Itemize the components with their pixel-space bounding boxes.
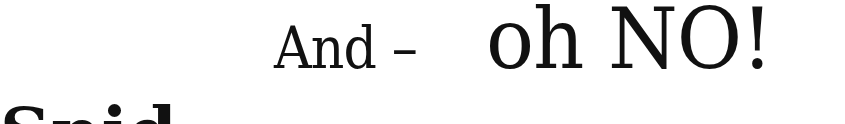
cut-off-next-line: Snid	[0, 98, 177, 124]
heading-emphasis-text: oh NO!	[486, 0, 772, 88]
heading-lead-text: And –	[274, 14, 417, 82]
